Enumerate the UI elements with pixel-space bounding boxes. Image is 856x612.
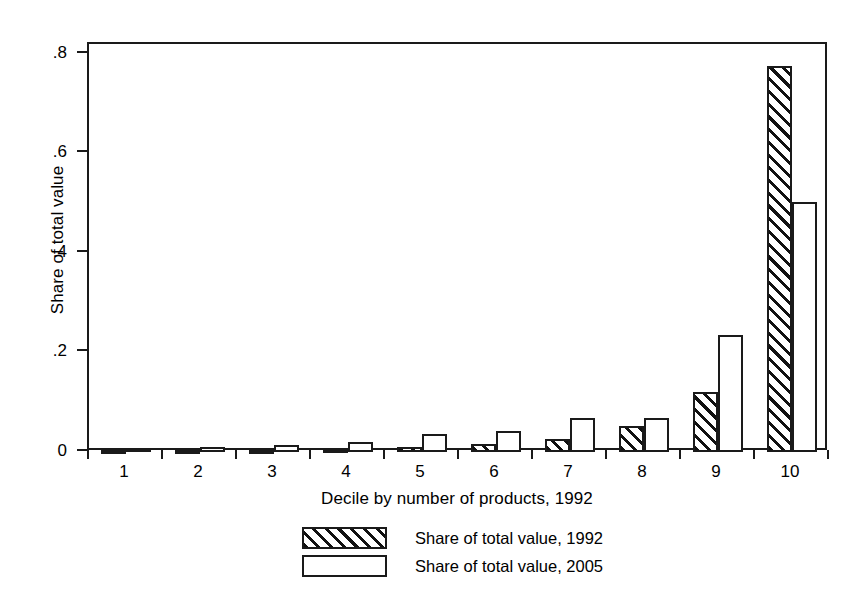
bar-3-1992	[249, 450, 274, 454]
x-axis-tick-label: 9	[681, 462, 751, 482]
x-axis-tick-label: 8	[607, 462, 677, 482]
x-axis-tick	[161, 450, 163, 459]
x-axis-tick	[827, 450, 829, 459]
bar-3-2005	[274, 445, 299, 452]
x-axis-tick-label: 6	[459, 462, 529, 482]
bar-8-1992	[619, 426, 644, 452]
x-axis-tick	[87, 450, 89, 459]
x-axis-tick	[383, 450, 385, 459]
x-axis-title: Decile by number of products, 1992	[87, 489, 827, 509]
x-axis-tick	[531, 450, 533, 459]
y-axis-tick-label: .2	[7, 342, 67, 359]
bar-7-1992	[545, 439, 570, 452]
bar-8-2005	[644, 418, 669, 452]
y-axis-tick-label: .4	[7, 242, 67, 259]
x-axis-tick	[309, 450, 311, 459]
bar-9-1992	[693, 392, 718, 452]
x-axis-tick-label: 3	[237, 462, 307, 482]
bar-10-2005	[792, 202, 817, 452]
bar-4-1992	[323, 449, 348, 453]
y-axis-tick-label: 0	[7, 442, 67, 459]
bar-5-1992	[397, 447, 422, 452]
x-axis-tick	[753, 450, 755, 459]
bar-2-2005	[200, 447, 225, 452]
x-axis-tick-label: 5	[385, 462, 455, 482]
x-axis-tick-label: 10	[755, 462, 825, 482]
bar-chart-figure: Share of total value 0.2.4.6.8 123456789…	[0, 0, 856, 612]
bar-1-1992	[101, 450, 126, 454]
x-axis-tick-label: 4	[311, 462, 381, 482]
chart-legend: Share of total value, 1992 Share of tota…	[302, 524, 722, 580]
legend-label-2005: Share of total value, 2005	[415, 557, 603, 576]
y-axis-tick-label: .8	[7, 43, 67, 60]
bar-1-2005	[126, 448, 151, 452]
x-axis-tick	[605, 450, 607, 459]
bar-6-1992	[471, 444, 496, 452]
plot-area	[87, 42, 827, 450]
legend-row: Share of total value, 2005	[302, 552, 722, 580]
bar-5-2005	[422, 434, 447, 452]
bar-6-2005	[496, 431, 521, 452]
legend-label-1992: Share of total value, 1992	[415, 529, 603, 548]
legend-row: Share of total value, 1992	[302, 524, 722, 552]
y-axis-tick-label: .6	[7, 143, 67, 160]
x-axis-tick	[457, 450, 459, 459]
bar-9-2005	[718, 335, 743, 452]
x-axis-tick-label: 7	[533, 462, 603, 482]
legend-swatch-2005	[302, 555, 387, 577]
bar-7-2005	[570, 418, 595, 452]
x-axis-tick	[679, 450, 681, 459]
bar-4-2005	[348, 442, 373, 452]
x-axis-tick-label: 1	[89, 462, 159, 482]
bar-10-1992	[767, 66, 792, 452]
legend-swatch-1992	[302, 527, 387, 549]
x-axis-tick-label: 2	[163, 462, 233, 482]
bar-2-1992	[175, 450, 200, 454]
x-axis-tick	[235, 450, 237, 459]
